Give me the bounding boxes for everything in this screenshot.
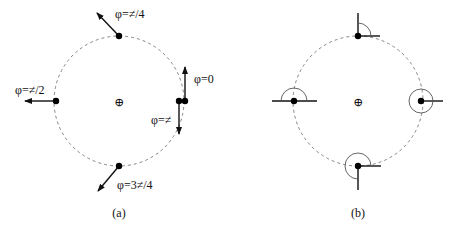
particle-dot-b-right — [418, 98, 424, 104]
label-right-down: φ=≠ — [151, 113, 172, 127]
angle-marker-left — [272, 88, 317, 104]
caption-b: (b) — [351, 206, 365, 220]
angle-marker-bottom — [345, 153, 381, 190]
label-left: φ=≠/2 — [15, 83, 45, 97]
label-bottom: φ=3≠/4 — [117, 178, 153, 192]
particle-dot-b-left — [291, 98, 297, 104]
label-right-up: φ=0 — [194, 72, 214, 86]
particle-dot-top — [116, 33, 122, 39]
caption-a: (a) — [112, 206, 125, 220]
particle-dot-right-1 — [176, 98, 182, 104]
particle-dot-left — [53, 98, 59, 104]
panel-a: ⊕ φ=≠/4 φ=0 φ=≠ φ=≠/2 φ=3≠/4 (a) — [15, 7, 214, 220]
angle-marker-top — [355, 13, 380, 39]
center-symbol-a: ⊕ — [114, 95, 124, 109]
particle-dot-b-top — [355, 33, 361, 39]
center-symbol-b: ⊕ — [353, 95, 363, 109]
particle-dot-bottom — [116, 163, 122, 169]
vector-arrow-bottom — [98, 166, 119, 191]
label-top: φ=≠/4 — [115, 7, 145, 21]
panel-b: ⊕ (b) — [272, 13, 443, 220]
particle-dot-right-2 — [182, 98, 188, 104]
particle-dot-b-bottom — [355, 163, 361, 169]
figure-canvas: ⊕ φ=≠/4 φ=0 φ=≠ φ=≠/2 φ=3≠/4 (a) ⊕ — [0, 0, 457, 234]
angle-marker-right — [409, 89, 443, 113]
